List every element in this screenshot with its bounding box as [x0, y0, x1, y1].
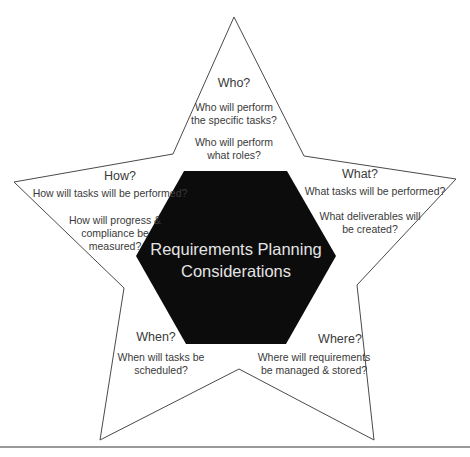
- what-q2-line2: be created?: [305, 223, 435, 236]
- who-question-1: Who will perform the specific tasks?: [174, 101, 294, 127]
- when-heading: When?: [116, 331, 196, 344]
- where-q1-line2: be managed & stored?: [244, 364, 384, 377]
- what-heading: What?: [310, 168, 410, 181]
- when-q1-line2: scheduled?: [106, 364, 216, 377]
- bottom-divider: [0, 446, 470, 448]
- how-q2-line2: compliance be: [55, 227, 175, 240]
- how-q2-line1: How will progress &: [55, 214, 175, 227]
- what-question-1: What tasks will be performed?: [295, 185, 455, 198]
- what-question-2: What deliverables will be created?: [305, 210, 435, 236]
- who-q2-line1: Who will perform: [174, 136, 294, 149]
- who-heading: Who?: [184, 77, 284, 90]
- what-q2-line1: What deliverables will: [305, 210, 435, 223]
- where-heading: Where?: [300, 333, 380, 346]
- how-question-1: How will tasks will be performed?: [30, 187, 190, 200]
- who-q1-line2: the specific tasks?: [174, 114, 294, 127]
- how-q2-line3: measured?: [55, 240, 175, 253]
- when-question-1: When will tasks be scheduled?: [106, 351, 216, 377]
- how-heading: How?: [70, 170, 170, 183]
- who-question-2: Who will perform what roles?: [174, 136, 294, 162]
- when-q1-line1: When will tasks be: [106, 351, 216, 364]
- how-question-2: How will progress & compliance be measur…: [55, 214, 175, 253]
- center-title-line2: Considerations: [136, 260, 336, 282]
- who-q1-line1: Who will perform: [174, 101, 294, 114]
- where-q1-line1: Where will requirements: [244, 351, 384, 364]
- where-question-1: Where will requirements be managed & sto…: [244, 351, 384, 377]
- who-q2-line2: what roles?: [174, 149, 294, 162]
